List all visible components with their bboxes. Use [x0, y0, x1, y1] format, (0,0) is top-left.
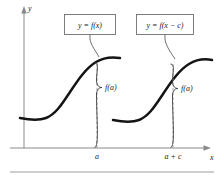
- figure-container: y x f(a) f(a) a a + c y = f(x): [0, 0, 224, 183]
- translation-graph: y x f(a) f(a) a a + c y = f(x): [0, 0, 224, 183]
- measure-left: f(a): [95, 62, 117, 148]
- x-axis-label: x: [209, 153, 214, 162]
- brace-left: [95, 62, 103, 148]
- callout-original-function: y = f(x): [65, 15, 116, 58]
- y-axis-arrowhead: [21, 6, 26, 14]
- y-axis-label: y: [27, 4, 32, 13]
- callout-label-original: y = f(x): [77, 21, 102, 30]
- callout-label-shifted: y = f(x − c): [146, 21, 184, 30]
- value-label-fa-left: f(a): [105, 83, 117, 92]
- curve-shifted: [113, 59, 212, 122]
- value-label-fa-right: f(a): [181, 84, 193, 93]
- callout-shifted-function: y = f(x − c): [137, 15, 194, 60]
- leader-line-original: [90, 35, 99, 57]
- x-axis-arrowhead: [204, 145, 212, 150]
- leader-line-shifted: [165, 35, 175, 59]
- tick-label-a: a: [95, 152, 99, 161]
- tick-label-a-plus-c: a + c: [165, 152, 182, 161]
